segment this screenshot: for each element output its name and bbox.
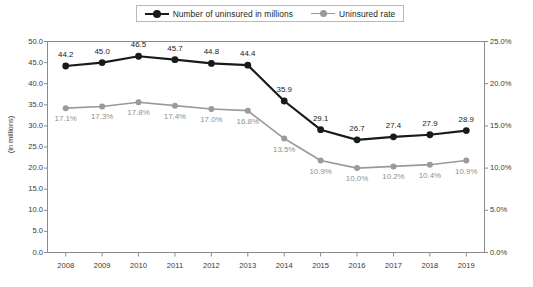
y-axis-left-tick: 5.0 [15,226,43,235]
data-point [135,53,142,60]
data-point-label: 45.0 [84,47,120,56]
y-axis-left-tick: 20.0 [15,163,43,172]
data-point-label: 46.5 [121,40,157,49]
x-axis-tick-label: 2011 [155,261,195,270]
data-point [172,56,179,63]
data-point [99,103,105,109]
data-point-label: 29.1 [303,114,339,123]
y-axis-left-tick: 15.0 [15,184,43,193]
x-axis-tick-label: 2012 [191,261,231,270]
y-axis-right-tick: 5.0% [490,205,524,214]
data-point [354,136,361,143]
data-point [244,62,251,69]
data-point [317,126,324,133]
data-point-label: 17.1% [48,114,84,123]
data-point [172,103,178,109]
x-axis-tick-label: 2010 [119,261,159,270]
data-point [208,106,214,112]
data-point-label: 10.0% [339,174,375,183]
plot-area [0,0,533,287]
data-point [354,165,360,171]
uninsured-trend-chart: Number of uninsured in millions Uninsure… [0,0,533,287]
data-point-label: 45.7 [157,44,193,53]
data-point-label: 28.9 [448,115,484,124]
y-axis-right-tick: 10.0% [490,163,524,172]
data-point [463,127,470,134]
data-point-label: 27.9 [412,119,448,128]
x-axis-tick-label: 2014 [264,261,304,270]
y-axis-right-tick: 20.0% [490,79,524,88]
data-point-label: 17.8% [121,108,157,117]
data-point-label: 44.8 [193,47,229,56]
data-point [62,63,69,70]
y-axis-left-tick: 40.0 [15,79,43,88]
y-axis-left-tick: 30.0 [15,121,43,130]
data-point [390,163,396,169]
data-point-label: 27.4 [375,121,411,130]
data-point [426,131,433,138]
x-axis-tick-label: 2019 [446,261,486,270]
x-axis-tick-label: 2015 [301,261,341,270]
x-axis-tick-label: 2016 [337,261,377,270]
data-point-label: 13.5% [266,145,302,154]
data-point-label: 10.9% [303,167,339,176]
data-point [281,136,287,142]
x-axis-tick-label: 2008 [46,261,86,270]
data-point-label: 10.4% [412,171,448,180]
y-axis-right-tick: 0.0% [490,248,524,257]
data-point-label: 17.0% [193,115,229,124]
data-point [281,98,288,105]
data-point [245,108,251,114]
data-point-label: 10.9% [448,167,484,176]
y-axis-left-tick: 10.0 [15,205,43,214]
data-point-label: 10.2% [375,172,411,181]
data-point [63,105,69,111]
data-point-label: 44.2 [48,50,84,59]
y-axis-left-tick: 0.0 [15,248,43,257]
data-point [136,99,142,105]
y-axis-left-tick: 25.0 [15,142,43,151]
data-point [427,162,433,168]
y-axis-left-tick: 35.0 [15,100,43,109]
y-axis-right-tick: 25.0% [490,37,524,46]
y-axis-left-tick: 50.0 [15,37,43,46]
data-point [208,60,215,67]
x-axis-tick-label: 2013 [228,261,268,270]
data-point-label: 26.7 [339,124,375,133]
data-point [390,133,397,140]
y-axis-left-tick: 45.0 [15,58,43,67]
data-point [463,158,469,164]
data-point-label: 17.4% [157,112,193,121]
data-point-label: 44.4 [230,49,266,58]
x-axis-tick-label: 2018 [410,261,450,270]
y-axis-right-tick: 15.0% [490,121,524,130]
x-axis-tick-label: 2017 [373,261,413,270]
data-point-label: 17.3% [84,112,120,121]
data-point [318,158,324,164]
data-point [99,59,106,66]
x-axis-tick-label: 2009 [82,261,122,270]
data-point-label: 35.9 [266,85,302,94]
data-point-label: 16.8% [230,117,266,126]
